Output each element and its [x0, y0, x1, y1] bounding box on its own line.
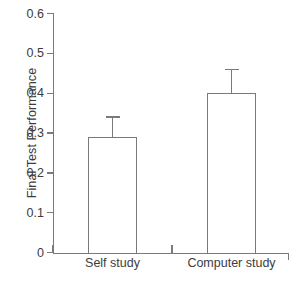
y-axis-tick-label: 0: [4, 246, 44, 260]
y-axis-tick: [47, 93, 53, 94]
y-axis-tick-label: 0.5: [4, 46, 44, 60]
y-axis-tick: [47, 212, 53, 213]
y-axis-line: [53, 13, 54, 254]
y-axis-tick-label: 0.3: [4, 126, 44, 140]
y-axis-tick: [47, 13, 53, 14]
y-axis-tick-label: 0.2: [4, 166, 44, 180]
error-bar-stem: [112, 117, 113, 137]
bar: [207, 93, 256, 252]
y-axis-tick-label: 0.4: [4, 86, 44, 100]
y-axis-tick: [47, 172, 53, 173]
bar: [88, 137, 137, 253]
bar-chart-figure: Final Test Performance 00.10.20.30.40.50…: [0, 0, 303, 283]
x-axis-category-label: Self study: [85, 256, 140, 270]
x-axis-tick: [171, 245, 172, 253]
error-bar-cap: [225, 69, 239, 70]
x-axis-tick: [52, 245, 53, 253]
error-bar-stem: [231, 69, 232, 93]
y-axis-tick: [47, 132, 53, 133]
x-axis-end-tick: [288, 253, 289, 260]
y-axis-tick: [47, 53, 53, 54]
error-bar-cap: [106, 116, 120, 117]
y-axis-tick-label: 0.6: [4, 7, 44, 21]
y-axis-tick-label: 0.1: [4, 206, 44, 220]
x-axis-category-label: Computer study: [187, 256, 275, 270]
